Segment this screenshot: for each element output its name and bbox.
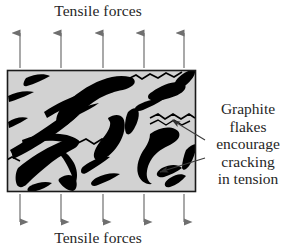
tensile-forces-label-bottom: Tensile forces bbox=[0, 229, 196, 247]
specimen-microstructure bbox=[5, 70, 196, 192]
annotation-line-1: Graphite bbox=[203, 100, 293, 118]
annotation-line-4: cracking bbox=[203, 153, 293, 171]
tensile-arrows-bottom bbox=[20, 194, 184, 222]
annotation-line-3: encourage bbox=[203, 135, 293, 153]
tensile-arrows-top bbox=[20, 33, 184, 68]
annotation-line-5: in tension bbox=[203, 170, 293, 188]
annotation-line-2: flakes bbox=[203, 118, 293, 136]
graphite-flakes-annotation: Graphite flakes encourage cracking in te… bbox=[203, 100, 293, 188]
tensile-forces-label-top: Tensile forces bbox=[0, 2, 196, 20]
